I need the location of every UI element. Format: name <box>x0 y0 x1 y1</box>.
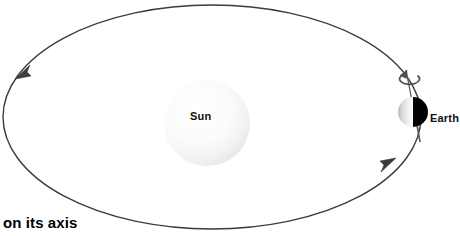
earth-spin-arrow <box>400 70 420 84</box>
orbit-arrow-left-icon <box>15 65 31 79</box>
sun-label: Sun <box>190 111 211 122</box>
earth-label: Earth <box>430 113 459 124</box>
earth-lit-half <box>398 97 413 127</box>
orbit-layer <box>0 0 460 236</box>
sun-sphere <box>164 80 250 166</box>
earth-sphere <box>398 97 428 127</box>
earth-dark-half <box>413 97 428 127</box>
axis-caption: on its axis <box>3 215 77 230</box>
earth-orbit-diagram: Sun Earth on its axis <box>0 0 460 236</box>
orbit-arrow-right-icon <box>380 158 396 172</box>
